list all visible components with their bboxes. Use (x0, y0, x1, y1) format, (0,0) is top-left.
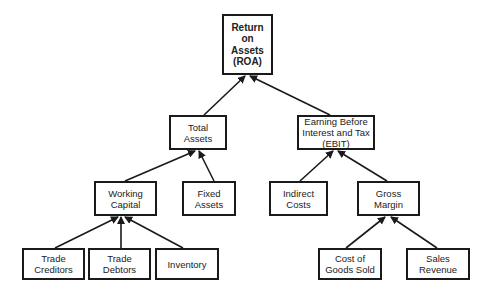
arrow-sales-revenue-to-gross-margin (391, 217, 437, 248)
node-working-capital: Working Capital (94, 181, 157, 216)
arrow-fixed-assets-to-total-assets (199, 151, 214, 181)
node-indirect-costs: Indirect Costs (269, 181, 328, 216)
roa-driver-tree-diagram: Return on Assets (ROA) Total Assets Earn… (0, 0, 486, 298)
node-sales-revenue: Sales Revenue (406, 248, 470, 280)
node-cost-of-goods-sold: Cost of Goods Sold (318, 248, 382, 280)
node-trade-debtors: Trade Debtors (88, 248, 151, 280)
arrow-ebit-to-roa (250, 76, 330, 115)
arrow-trade-creditors-to-working-capital (55, 217, 118, 248)
arrow-indirect-costs-to-ebit (300, 151, 333, 181)
arrow-total-assets-to-roa (204, 76, 245, 115)
node-inventory: Inventory (155, 248, 219, 280)
node-ebit: Earning Before Interest and Tax (EBIT) (297, 115, 375, 150)
node-fixed-assets: Fixed Assets (182, 181, 236, 216)
node-gross-margin: Gross Margin (357, 181, 420, 216)
arrow-cogs-to-gross-margin (346, 217, 385, 248)
node-roa: Return on Assets (ROA) (222, 14, 273, 75)
arrow-gross-margin-to-ebit (338, 151, 387, 181)
node-trade-creditors: Trade Creditors (22, 248, 85, 280)
arrow-inventory-to-working-capital (125, 217, 183, 248)
node-total-assets: Total Assets (169, 115, 227, 150)
arrow-working-capital-to-total-assets (125, 151, 195, 181)
